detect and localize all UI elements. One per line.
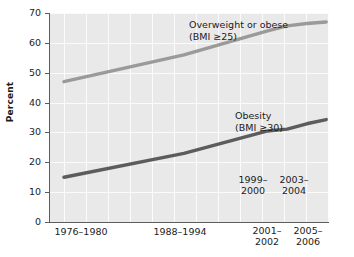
plot-area: 1999– 2000 2003– 2004 Overweight or obes… <box>50 13 329 222</box>
overweight-annotation-line1: Overweight or obese <box>189 19 288 31</box>
y-tick-mark-70 <box>45 13 50 14</box>
y-tick-mark-50 <box>45 73 50 74</box>
y-tick-mark-20 <box>45 162 50 163</box>
xtick-2005-2006-line1: 2005– <box>290 226 326 237</box>
overweight-annotation-line2: (BMI ≥25) <box>189 31 288 43</box>
y-tick-mark-60 <box>45 43 50 44</box>
xtick-label-2005-2006: 2005– 2006 <box>290 226 326 247</box>
xtick-2003-2004-line2: 2004 <box>276 186 312 197</box>
y-tick-label-20: 20 <box>29 157 41 167</box>
xtick-label-1988-1994: 1988–1994 <box>144 226 216 237</box>
chart-figure: 1999– 2000 2003– 2004 Overweight or obes… <box>0 0 354 257</box>
xtick-2003-2004-line1: 2003– <box>276 175 312 186</box>
series-line-obesity <box>64 120 326 178</box>
obesity-annotation-line1: Obesity <box>235 110 283 122</box>
y-tick-label-30: 30 <box>29 127 41 137</box>
y-tick-label-60: 60 <box>29 38 41 48</box>
xtick-1999-2000-line1: 1999– <box>235 175 271 186</box>
xtick-1999-2000-line2: 2000 <box>235 186 271 197</box>
x-axis-line <box>49 222 329 223</box>
overweight-annotation: Overweight or obese (BMI ≥25) <box>189 19 288 42</box>
xtick-2001-2002-line1: 2001– <box>249 226 285 237</box>
xtick-label-1999-2000: 1999– 2000 <box>235 175 271 196</box>
y-tick-label-50: 50 <box>29 68 41 78</box>
xtick-label-2003-2004: 2003– 2004 <box>276 175 312 196</box>
y-tick-mark-40 <box>45 103 50 104</box>
y-axis-title: Percent <box>5 72 15 132</box>
obesity-annotation: Obesity (BMI ≥30) <box>235 110 283 133</box>
y-tick-label-10: 10 <box>29 187 41 197</box>
y-tick-mark-30 <box>45 132 50 133</box>
y-tick-mark-10 <box>45 192 50 193</box>
xtick-label-2001-2002: 2001– 2002 <box>249 226 285 247</box>
y-tick-label-40: 40 <box>29 98 41 108</box>
xtick-label-1976-1980: 1976–1980 <box>45 226 117 237</box>
y-tick-label-70: 70 <box>29 8 41 18</box>
y-tick-mark-0 <box>45 222 50 223</box>
xtick-2005-2006-line2: 2006 <box>290 237 326 248</box>
y-tick-label-0: 0 <box>35 217 41 227</box>
obesity-annotation-line2: (BMI ≥30) <box>235 122 283 134</box>
xtick-2001-2002-line2: 2002 <box>249 237 285 248</box>
